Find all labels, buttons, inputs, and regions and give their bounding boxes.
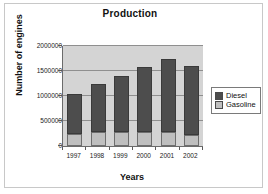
y-axis: 0500000100000015000002000000 bbox=[0, 46, 62, 146]
gridline bbox=[63, 120, 203, 121]
bar-segment-diesel bbox=[91, 84, 106, 132]
bar-segment-diesel bbox=[161, 59, 176, 133]
chart-legend: DieselGasoline bbox=[211, 87, 261, 114]
x-axis-tick-mark bbox=[62, 147, 63, 150]
legend-swatch-icon bbox=[215, 92, 223, 100]
x-axis: 199719981999200020012002 bbox=[62, 147, 203, 169]
y-axis-tick-label: 1500000 bbox=[6, 68, 62, 75]
bar-segment-diesel bbox=[114, 76, 129, 132]
x-axis-title: Years bbox=[62, 172, 202, 182]
bar-group bbox=[184, 46, 199, 146]
bar-segment-gasoline bbox=[184, 135, 199, 147]
x-axis-tick-label: 1998 bbox=[85, 152, 109, 159]
gridline bbox=[63, 45, 203, 46]
bar-segment-gasoline bbox=[161, 132, 176, 146]
bar-group bbox=[67, 46, 82, 146]
x-axis-tick-label: 1997 bbox=[62, 152, 86, 159]
bar-group bbox=[114, 46, 129, 146]
bar-group bbox=[161, 46, 176, 146]
x-axis-tick-mark bbox=[132, 147, 133, 150]
bar-segment-diesel bbox=[137, 67, 152, 132]
bar-segment-gasoline bbox=[114, 132, 129, 146]
x-axis-tick-mark bbox=[202, 147, 203, 150]
y-axis-tick-label: 2000000 bbox=[6, 43, 62, 50]
x-axis-tick-label: 2001 bbox=[155, 152, 179, 159]
y-axis-tick-label: 0 bbox=[6, 143, 62, 150]
legend-item: Gasoline bbox=[215, 101, 256, 109]
x-axis-tick-mark bbox=[155, 147, 156, 150]
gridline bbox=[63, 95, 203, 96]
y-axis-tick-label: 1000000 bbox=[6, 93, 62, 100]
bar-segment-gasoline bbox=[91, 132, 106, 146]
x-axis-tick-mark bbox=[109, 147, 110, 150]
y-axis-tick-label: 500000 bbox=[6, 118, 62, 125]
gridline bbox=[63, 70, 203, 71]
x-axis-tick-label: 1999 bbox=[108, 152, 132, 159]
legend-label: Gasoline bbox=[226, 101, 256, 109]
bar-group bbox=[91, 46, 106, 146]
x-axis-tick-mark bbox=[85, 147, 86, 150]
bar-group bbox=[137, 46, 152, 146]
bar-segment-diesel bbox=[67, 94, 82, 134]
legend-swatch-icon bbox=[215, 101, 223, 109]
x-axis-tick-label: 2000 bbox=[132, 152, 156, 159]
chart-title: Production bbox=[70, 8, 190, 19]
legend-label: Diesel bbox=[226, 92, 247, 100]
legend-item: Diesel bbox=[215, 92, 256, 100]
plot-area bbox=[62, 46, 203, 147]
x-axis-tick-label: 2002 bbox=[178, 152, 202, 159]
bar-segment-diesel bbox=[184, 66, 199, 135]
bar-segment-gasoline bbox=[137, 132, 152, 147]
chart-figure: Production Number of engines Years 05000… bbox=[0, 0, 268, 194]
bar-segment-gasoline bbox=[67, 134, 82, 147]
x-axis-tick-mark bbox=[179, 147, 180, 150]
